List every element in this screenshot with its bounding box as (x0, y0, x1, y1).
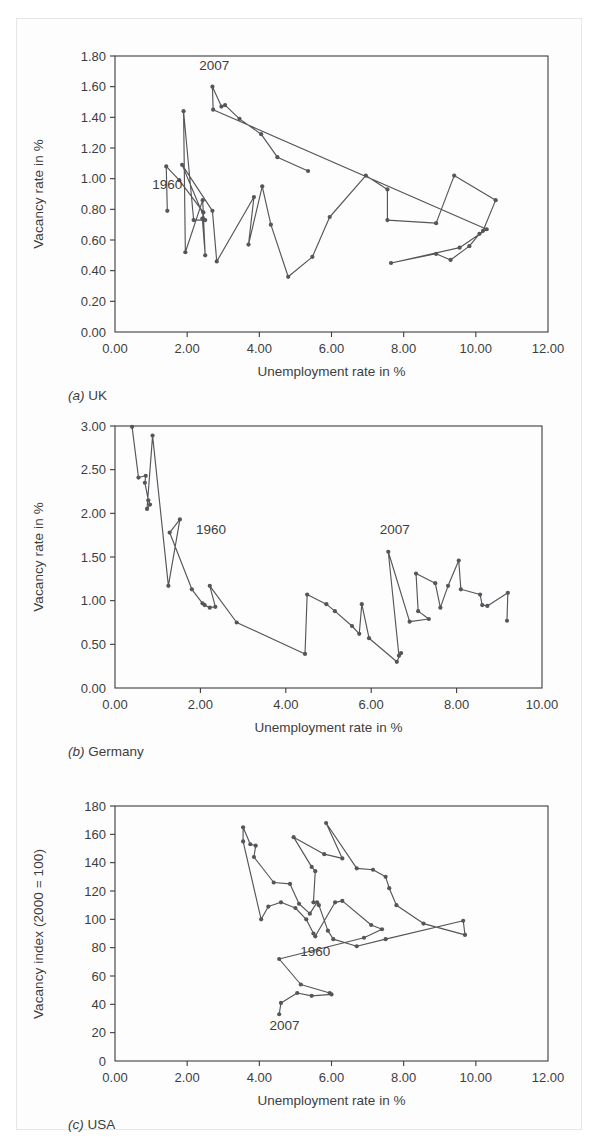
data-point (303, 652, 307, 656)
chart-annotation: 2007 (199, 58, 229, 73)
x-tick-label: 0.00 (102, 697, 127, 712)
data-point (384, 875, 388, 879)
data-point (461, 919, 465, 923)
data-point (145, 507, 149, 511)
y-axis-label-uk: Vacancy rate in % (31, 139, 46, 249)
data-point (304, 917, 308, 921)
data-point (328, 215, 332, 219)
data-point (219, 105, 223, 109)
data-point (208, 606, 212, 610)
data-point (458, 246, 462, 250)
x-tick-label: 12.00 (532, 1070, 565, 1085)
x-tick-label: 10.00 (460, 1070, 493, 1085)
y-tick-label: 40 (92, 997, 106, 1012)
data-point (260, 184, 264, 188)
data-point (433, 581, 437, 585)
data-point (463, 933, 467, 937)
data-point (288, 882, 292, 886)
data-point (485, 604, 489, 608)
y-tick-label: 100 (84, 912, 106, 927)
x-tick-label: 10.00 (460, 341, 493, 356)
data-point (215, 259, 219, 263)
data-point (180, 163, 184, 167)
data-point (434, 221, 438, 225)
data-point (272, 880, 276, 884)
data-point (340, 899, 344, 903)
data-point (367, 636, 371, 640)
y-axis-label-usa: Vacancy index (2000 = 100) (31, 848, 46, 1018)
data-point (387, 886, 391, 890)
data-point (190, 587, 194, 591)
y-tick-label: 0.60 (81, 233, 106, 248)
y-axis-label-germany: Vacancy rate in % (31, 502, 46, 612)
plot-area-uk: 0.000.200.400.600.801.001.201.401.601.80… (0, 30, 599, 400)
data-point (446, 584, 450, 588)
data-point (164, 164, 168, 168)
y-tick-label: 60 (92, 969, 106, 984)
data-point (310, 865, 314, 869)
panel-usa: 0204060801001201401601800.002.004.006.00… (0, 780, 599, 1140)
panel-caption-usa: (c) USA (68, 1117, 115, 1132)
data-point (297, 902, 301, 906)
x-tick-label: 8.00 (391, 1070, 416, 1085)
data-point (166, 584, 170, 588)
data-point (477, 232, 481, 236)
data-point (506, 591, 510, 595)
y-tick-label: 1.00 (81, 171, 106, 186)
data-point (310, 255, 314, 259)
data-point (277, 1012, 281, 1016)
data-point (299, 982, 303, 986)
data-point (485, 227, 489, 231)
data-point (380, 927, 384, 931)
y-tick-label: 1.00 (81, 593, 106, 608)
data-point (213, 605, 217, 609)
data-point (386, 550, 390, 554)
data-point (223, 103, 227, 107)
chart-annotation: 2007 (380, 522, 410, 537)
x-tick-label: 4.00 (273, 697, 298, 712)
x-axis-label-uk: Unemployment rate in % (115, 364, 548, 379)
x-tick-label: 0.00 (102, 1070, 127, 1085)
y-tick-label: 1.80 (81, 49, 106, 64)
data-point (385, 187, 389, 191)
series-line (243, 823, 465, 1014)
data-point (421, 921, 425, 925)
data-point (210, 209, 214, 213)
data-point (308, 912, 312, 916)
data-point (148, 503, 152, 507)
data-point (324, 821, 328, 825)
chart-annotation: 1960 (300, 944, 330, 959)
data-point (266, 904, 270, 908)
panel-caption-germany: (b) Germany (68, 744, 144, 759)
data-point (168, 530, 172, 534)
data-point (434, 252, 438, 256)
data-point (313, 869, 317, 873)
data-point (241, 825, 245, 829)
data-point (360, 602, 364, 606)
panel-germany: 0.000.501.001.502.002.503.000.002.004.00… (0, 400, 599, 780)
y-tick-label: 0.80 (81, 202, 106, 217)
data-point (478, 592, 482, 596)
y-tick-label: 0.20 (81, 294, 106, 309)
y-tick-label: 180 (84, 799, 106, 814)
data-point (505, 619, 509, 623)
panel-caption-label-germany: Germany (88, 744, 144, 759)
data-point (333, 900, 337, 904)
y-tick-label: 160 (84, 827, 106, 842)
x-tick-label: 10.00 (526, 697, 559, 712)
y-tick-label: 80 (92, 940, 106, 955)
data-point (203, 253, 207, 257)
y-tick-label: 0.00 (81, 681, 106, 696)
data-point (452, 174, 456, 178)
chart-annotation: 1960 (152, 177, 182, 192)
data-point (178, 517, 182, 521)
data-point (192, 218, 196, 222)
plot-frame (115, 806, 548, 1061)
panel-caption-prefix-germany: (b) (68, 744, 85, 759)
data-point (333, 609, 337, 613)
y-tick-label: 0 (99, 1054, 106, 1069)
data-point (389, 261, 393, 265)
data-point (324, 602, 328, 606)
data-point (480, 603, 484, 607)
y-tick-label: 0.40 (81, 263, 106, 278)
